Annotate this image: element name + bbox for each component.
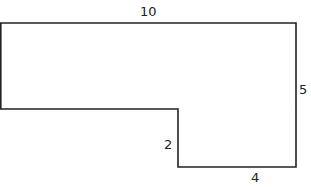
label-right: 5: [299, 82, 307, 97]
label-step: 2: [164, 137, 172, 152]
l-shape-diagram: [0, 0, 311, 187]
label-top: 10: [140, 4, 157, 19]
label-bottom: 4: [251, 170, 259, 185]
l-shape-outline: [0, 23, 296, 167]
